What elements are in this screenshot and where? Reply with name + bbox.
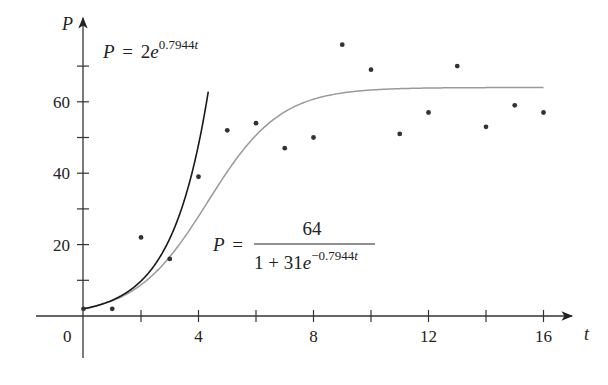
x-tick-label: 16 bbox=[535, 327, 552, 346]
data-point bbox=[81, 306, 86, 311]
x-axis-label: t bbox=[584, 324, 590, 344]
y-tick-labels: 204060 bbox=[53, 93, 70, 255]
logistic-denominator: 1 + 31e−0.7944t bbox=[254, 248, 358, 273]
y-tick-label: 60 bbox=[53, 93, 70, 112]
svg-text:P = 2e0.7944t: P = 2e0.7944t bbox=[102, 37, 199, 62]
data-point bbox=[254, 121, 259, 126]
data-point bbox=[110, 306, 115, 311]
data-point bbox=[340, 42, 345, 47]
svg-text:P =: P = bbox=[212, 234, 243, 255]
data-point bbox=[426, 110, 431, 115]
axes: 481216 204060 0 t P bbox=[36, 14, 590, 358]
exponential-equation-label: P = 2e0.7944t bbox=[102, 37, 199, 62]
data-point bbox=[369, 67, 374, 72]
logistic-curve bbox=[84, 88, 544, 309]
chart: 481216 204060 0 t P P = 2e0.7944t P = 64… bbox=[0, 0, 608, 385]
data-point bbox=[282, 146, 287, 151]
logistic-numerator: 64 bbox=[303, 218, 323, 239]
data-point bbox=[455, 64, 460, 69]
origin-label: 0 bbox=[63, 327, 72, 346]
data-point bbox=[225, 128, 230, 133]
data-point bbox=[311, 135, 316, 140]
y-tick-label: 40 bbox=[53, 164, 70, 183]
data-point bbox=[541, 110, 546, 115]
exponential-curve bbox=[84, 92, 209, 309]
logistic-equation-label: P = 64 1 + 31e−0.7944t bbox=[212, 218, 375, 273]
y-axis-label: P bbox=[61, 14, 73, 34]
data-point bbox=[167, 256, 172, 261]
x-tick-label: 8 bbox=[309, 327, 318, 346]
data-point bbox=[512, 103, 517, 108]
x-tick-label: 12 bbox=[420, 327, 437, 346]
data-point bbox=[139, 235, 144, 240]
x-tick-labels: 481216 bbox=[194, 327, 552, 346]
data-point bbox=[484, 124, 489, 129]
data-point bbox=[397, 132, 402, 137]
data-point bbox=[196, 174, 201, 179]
x-tick-label: 4 bbox=[194, 327, 203, 346]
y-tick-label: 20 bbox=[53, 236, 70, 255]
